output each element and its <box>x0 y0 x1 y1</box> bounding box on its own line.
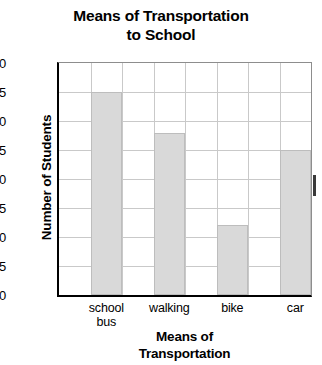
plot-area <box>57 62 312 297</box>
grid-line-vertical <box>122 63 123 295</box>
y-axis-tick-label: 10 <box>0 231 6 244</box>
y-axis-tick-label: 30 <box>0 115 6 128</box>
chart-title-line-2: to School <box>0 25 322 44</box>
y-axis-tick-label: 25 <box>0 144 6 157</box>
scan-edge-mark <box>313 175 316 196</box>
y-axis-tick-label: 20 <box>0 173 6 186</box>
bar <box>280 150 312 295</box>
y-axis-tick-label: 0 <box>0 289 6 302</box>
y-axis-tick-label: 5 <box>0 260 6 273</box>
grid-line-vertical <box>185 63 186 295</box>
x-axis-title: Means of Transportation <box>57 328 312 362</box>
y-axis-tick-label: 40 <box>0 57 6 70</box>
chart-title-line-1: Means of Transportation <box>0 6 322 25</box>
x-axis-title-line-2: Transportation <box>57 345 312 362</box>
x-axis-tick-label: car <box>255 301 322 315</box>
bar <box>217 225 249 295</box>
y-axis-title: Number of Students <box>39 58 54 298</box>
bar <box>154 133 186 295</box>
chart-title: Means of Transportation to School <box>0 6 322 44</box>
bar <box>91 92 123 295</box>
x-axis-tick-label-line: bus <box>66 315 146 329</box>
grid-line-vertical <box>248 63 249 295</box>
y-axis-tick-label: 15 <box>0 202 6 215</box>
x-axis-tick-label-line: car <box>255 301 322 315</box>
y-axis-tick-label: 35 <box>0 86 6 99</box>
x-axis-title-line-1: Means of <box>57 328 312 345</box>
